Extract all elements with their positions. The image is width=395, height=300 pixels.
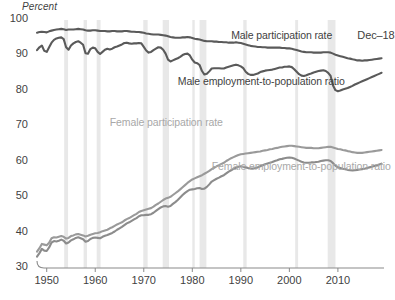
x-tick-label-1950: 1950 xyxy=(25,274,69,286)
recession-band-2 xyxy=(97,20,101,268)
recession-band-5 xyxy=(192,20,194,268)
recession-band-1 xyxy=(84,20,87,268)
recession-band-8 xyxy=(295,20,298,268)
recession-band-9 xyxy=(328,20,336,268)
y-tick-label-70: 70 xyxy=(0,118,28,130)
y-tick-label-100: 100 xyxy=(0,12,28,24)
annotation-3: Female participation rate xyxy=(110,116,223,128)
annotation-4: Female employment-to-population ratio xyxy=(212,160,391,172)
y-tick-label-90: 90 xyxy=(0,47,28,59)
recession-band-0 xyxy=(64,20,68,268)
x-tick-label-1970: 1970 xyxy=(122,274,166,286)
x-tick-label-2010: 2010 xyxy=(316,274,360,286)
x-tick-label-1960: 1960 xyxy=(73,274,117,286)
recession-band-6 xyxy=(200,20,207,268)
annotation-1: Dec–18 xyxy=(357,29,394,41)
x-tick-label-1980: 1980 xyxy=(170,274,214,286)
x-tick-label-2000: 2000 xyxy=(267,274,311,286)
annotation-2: Male employment-to-population ratio xyxy=(178,75,345,87)
y-tick-label-30: 30 xyxy=(0,260,28,272)
x-tick-label-1990: 1990 xyxy=(219,274,263,286)
annotation-0: Male participation rate xyxy=(231,29,332,41)
y-tick-label-60: 60 xyxy=(0,154,28,166)
axis-ticks-group xyxy=(47,268,338,272)
recession-band-7 xyxy=(243,20,246,268)
recession-band-3 xyxy=(143,20,147,268)
y-tick-label-50: 50 xyxy=(0,189,28,201)
y-tick-label-40: 40 xyxy=(0,225,28,237)
y-tick-label-80: 80 xyxy=(0,83,28,95)
